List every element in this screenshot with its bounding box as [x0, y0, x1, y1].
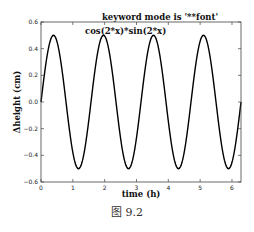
plot-area: 0123456 −0.6−0.4−0.20.00.20.40.6 [23, 18, 241, 191]
x-tick-label: 1 [71, 184, 75, 191]
y-tick-label: 0.4 [28, 45, 38, 52]
y-tick-label: −0.4 [23, 151, 38, 158]
chart-title: keyword mode is '**font' [102, 12, 218, 22]
x-tick-label: 5 [198, 184, 202, 191]
figure: keyword mode is '**font' 0123456 −0.6−0.… [0, 0, 254, 232]
x-axis-ticks: 0123456 [39, 22, 234, 191]
y-tick-label: −0.2 [23, 125, 38, 132]
y-tick-label: 0.2 [28, 71, 38, 78]
y-tick-label: −0.6 [23, 178, 38, 185]
figure-caption: 图 9.2 [0, 203, 254, 219]
y-tick-label: 0.0 [28, 98, 38, 105]
y-tick-label: 0.6 [28, 18, 38, 25]
x-axis-label: time (h) [122, 189, 161, 199]
x-tick-label: 4 [166, 184, 170, 191]
x-tick-label: 6 [230, 184, 234, 191]
x-tick-label: 2 [103, 184, 107, 191]
data-line [41, 35, 241, 168]
x-tick-label: 0 [39, 184, 43, 191]
y-axis-label: Δheight (cm) [12, 71, 22, 134]
formula-annotation: cos(2*x)*sin(2*x) [85, 26, 166, 36]
